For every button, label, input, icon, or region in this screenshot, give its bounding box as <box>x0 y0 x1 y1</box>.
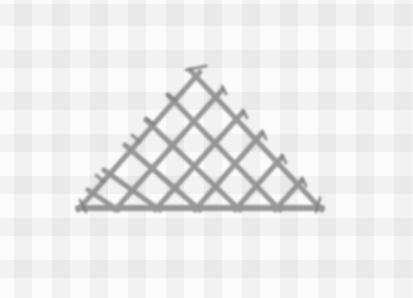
fabric-background <box>0 0 413 298</box>
cross-stitch-triangle <box>0 0 413 298</box>
